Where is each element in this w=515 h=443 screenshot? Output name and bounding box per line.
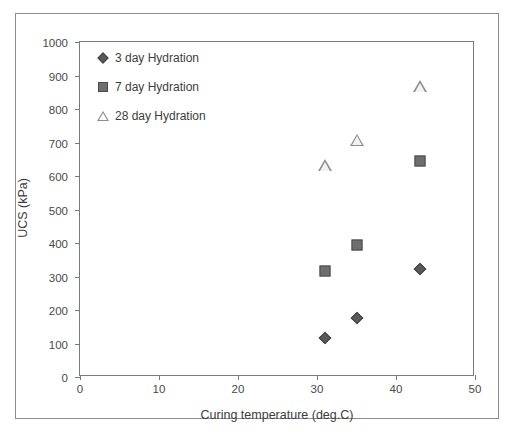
x-tick-label: 0	[77, 383, 83, 395]
square-marker-icon	[414, 155, 425, 166]
chart-legend: 3 day Hydration7 day Hydration28 day Hyd…	[96, 51, 206, 123]
y-tick: 900	[75, 76, 80, 77]
x-axis-title: Curing temperature (deg.C)	[201, 408, 354, 422]
x-tick-label: 20	[232, 383, 245, 395]
y-tick: 500	[75, 210, 80, 211]
y-tick-label: 800	[49, 104, 68, 116]
triangle-marker-icon	[350, 134, 364, 146]
triangle-marker-icon	[96, 111, 110, 121]
y-axis-title: UCS (kPa)	[16, 178, 30, 238]
x-tick	[317, 375, 318, 380]
y-tick: 400	[75, 243, 80, 244]
y-tick: 200	[75, 310, 80, 311]
data-point-square[interactable]	[351, 240, 362, 251]
legend-label: 3 day Hydration	[115, 51, 199, 65]
data-point-square[interactable]	[319, 266, 330, 277]
y-tick: 700	[75, 143, 80, 144]
square-marker-icon	[351, 240, 362, 251]
triangle-marker-icon-glyph	[97, 111, 109, 121]
x-tick-label: 10	[153, 383, 166, 395]
y-tick-label: 500	[49, 205, 68, 217]
data-point-triangle[interactable]	[413, 80, 427, 92]
data-point-diamond[interactable]	[320, 334, 329, 343]
y-tick-label: 900	[49, 71, 68, 83]
diamond-marker-icon-glyph	[97, 52, 108, 63]
square-marker-icon	[319, 266, 330, 277]
y-tick-label: 400	[49, 238, 68, 250]
y-tick-label: 300	[49, 272, 68, 284]
y-tick: 300	[75, 277, 80, 278]
x-tick-label: 30	[311, 383, 324, 395]
data-point-triangle[interactable]	[318, 159, 332, 171]
diamond-marker-icon	[96, 54, 110, 62]
x-tick	[475, 375, 476, 380]
legend-item-3[interactable]: 28 day Hydration	[96, 109, 206, 123]
y-tick-label: 200	[49, 305, 68, 317]
y-tick: 600	[75, 176, 80, 177]
x-tick	[396, 375, 397, 380]
triangle-marker-icon	[318, 159, 332, 171]
x-tick-label: 40	[390, 383, 403, 395]
data-point-square[interactable]	[414, 155, 425, 166]
y-tick-label: 600	[49, 171, 68, 183]
y-tick-label: 1000	[42, 37, 68, 49]
x-tick	[80, 375, 81, 380]
x-tick	[238, 375, 239, 380]
x-tick	[159, 375, 160, 380]
data-point-triangle[interactable]	[350, 134, 364, 146]
diamond-marker-icon	[413, 262, 426, 275]
y-tick-label: 700	[49, 138, 68, 150]
square-marker-icon	[96, 82, 110, 92]
x-tick-label: 50	[469, 383, 482, 395]
y-tick: 800	[75, 109, 80, 110]
triangle-marker-icon	[413, 80, 427, 92]
y-tick-label: 100	[49, 339, 68, 351]
square-marker-icon-glyph	[98, 82, 108, 92]
y-tick: 1000	[75, 42, 80, 43]
data-point-diamond[interactable]	[352, 314, 361, 323]
legend-item-1[interactable]: 3 day Hydration	[96, 51, 206, 65]
y-tick: 100	[75, 344, 80, 345]
data-point-diamond[interactable]	[415, 264, 424, 273]
legend-item-2[interactable]: 7 day Hydration	[96, 80, 206, 94]
diamond-marker-icon	[319, 332, 332, 345]
scatter-chart: UCS (kPa) Curing temperature (deg.C) 010…	[0, 0, 515, 443]
legend-label: 7 day Hydration	[115, 80, 199, 94]
diamond-marker-icon	[350, 312, 363, 325]
y-tick-label: 0	[62, 372, 68, 384]
legend-label: 28 day Hydration	[115, 109, 206, 123]
